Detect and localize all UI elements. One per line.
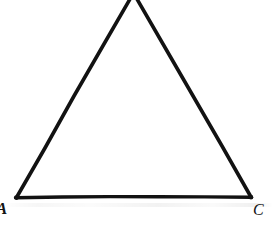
triangle-edge-base <box>16 197 252 198</box>
triangle-figure: A C <box>0 0 273 226</box>
triangle-edge-left <box>17 0 134 198</box>
vertex-label-c: C <box>253 202 264 218</box>
triangle-drawing <box>0 0 273 226</box>
vertex-dot-right <box>249 195 254 200</box>
vertex-dot-left <box>14 195 19 200</box>
triangle-edge-right <box>134 0 252 197</box>
triangle-outline <box>16 0 252 198</box>
vertex-label-a: A <box>0 200 7 217</box>
